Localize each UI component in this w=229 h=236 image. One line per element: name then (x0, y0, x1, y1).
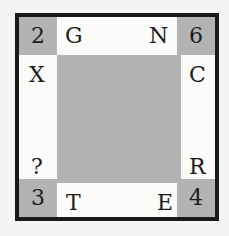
edge-letter-left-bottom: ? (31, 156, 43, 178)
edge-letter-bottom-left: T (66, 192, 81, 214)
edge-letter-top-right: N (149, 25, 168, 47)
edge-letter-right-bottom: R (189, 156, 206, 178)
corner-top-right: 6 (177, 17, 215, 55)
corner-number: 4 (189, 187, 203, 209)
corner-number: 2 (31, 25, 45, 47)
edge-letter-bottom-right: E (157, 192, 173, 214)
edge-letter-top-left: G (65, 25, 83, 47)
corner-top-left: 2 (19, 17, 57, 55)
corner-number: 3 (31, 187, 45, 209)
puzzle-board: 2 6 3 4 G N X ? C R T E (15, 13, 219, 221)
corner-bottom-left: 3 (19, 179, 57, 217)
corner-bottom-right: 4 (177, 179, 215, 217)
corner-number: 6 (189, 25, 203, 47)
center-square (57, 55, 181, 183)
edge-letter-right-top: C (189, 64, 206, 86)
edge-letter-left-top: X (29, 64, 45, 86)
